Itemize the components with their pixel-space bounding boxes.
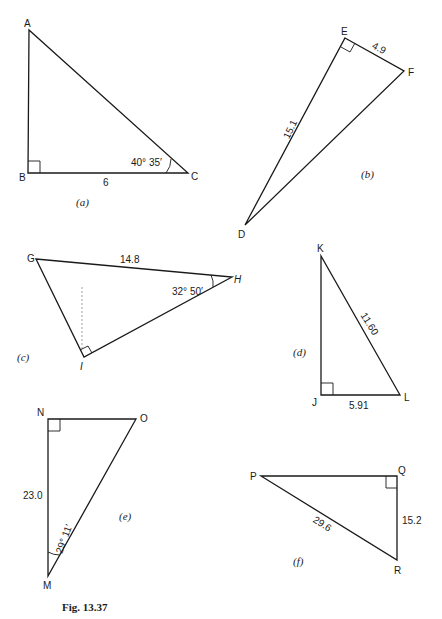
vertex-e: E — [341, 26, 348, 37]
vertex-c: C — [191, 171, 198, 182]
triangle-c: G H I 14.8 32° 50′ (c) — [17, 253, 242, 372]
vertex-f: F — [408, 67, 414, 78]
triangle-c-caption: (c) — [17, 351, 30, 364]
triangle-d: K J L 11.60 5.91 (d) — [293, 243, 410, 411]
triangle-f-caption: (f) — [293, 555, 304, 568]
triangle-a: A B C 6 40° 35′ (a) — [19, 18, 198, 209]
vertex-b: B — [19, 172, 26, 183]
triangle-b-shape — [245, 38, 404, 225]
vertex-m: M — [43, 580, 51, 591]
right-angle-marker-e — [341, 43, 355, 52]
vertex-o: O — [140, 413, 148, 424]
vertex-p: P — [250, 471, 257, 482]
triangle-f: P Q R 29.6 15.2 (f) — [250, 465, 422, 576]
angle-m-value: 29° 11′ — [54, 523, 75, 555]
triangle-e-caption: (e) — [119, 510, 132, 523]
vertex-r: R — [394, 565, 401, 576]
figure-caption: Fig. 13.37 — [62, 601, 108, 613]
vertex-k: K — [317, 243, 324, 254]
angle-arc-c — [166, 159, 171, 173]
triangle-d-shape — [321, 256, 400, 395]
side-qr-length: 15.2 — [402, 515, 422, 526]
triangle-f-shape — [261, 476, 397, 560]
angle-c-value: 40° 35′ — [131, 157, 162, 168]
vertex-g: G — [27, 253, 35, 264]
vertex-h: H — [234, 274, 242, 285]
triangle-e: N O M 23.0 29° 11′ (e) Fig. 13.37 — [23, 407, 148, 613]
side-jl-length: 5.91 — [349, 400, 369, 411]
vertex-j: J — [312, 397, 317, 408]
angle-arc-h — [211, 275, 213, 287]
right-angle-marker-b — [28, 161, 40, 173]
triangle-c-shape — [36, 259, 232, 357]
vertex-l: L — [404, 392, 410, 403]
side-pr-length: 29.6 — [311, 514, 334, 534]
right-angle-marker-n — [48, 419, 60, 431]
side-bc-length: 6 — [103, 177, 109, 188]
triangle-d-caption: (d) — [293, 346, 306, 359]
vertex-n: N — [37, 407, 44, 418]
triangle-b: E F D 4.9 15.1 (b) — [238, 26, 414, 240]
side-gh-length: 14.8 — [120, 254, 140, 265]
right-angle-marker-q — [386, 476, 397, 488]
triangle-b-caption: (b) — [361, 168, 374, 181]
triangle-a-caption: (a) — [76, 196, 89, 209]
figure-canvas: A B C 6 40° 35′ (a) E F D 4.9 15.1 (b) G… — [0, 0, 442, 619]
vertex-d: D — [238, 229, 245, 240]
side-mn-length: 23.0 — [23, 490, 43, 501]
vertex-q: Q — [398, 465, 406, 476]
angle-h-value: 32° 50′ — [172, 286, 203, 297]
vertex-i: I — [80, 361, 83, 372]
side-kl-length: 11.60 — [359, 311, 381, 338]
right-angle-marker-j — [321, 383, 333, 395]
triangle-a-shape — [28, 30, 188, 173]
vertex-a: A — [24, 18, 31, 29]
